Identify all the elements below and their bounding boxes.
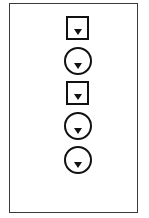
circle-button-2[interactable] [64,112,92,140]
square-button-1[interactable] [66,16,89,40]
down-triangle-icon [74,162,82,168]
down-triangle-icon [74,128,82,134]
circle-button-1[interactable] [64,47,92,75]
square-button-2[interactable] [66,81,89,105]
down-triangle-icon [74,63,82,69]
down-triangle-icon [74,94,82,100]
down-triangle-icon [74,29,82,35]
circle-button-3[interactable] [64,146,92,174]
